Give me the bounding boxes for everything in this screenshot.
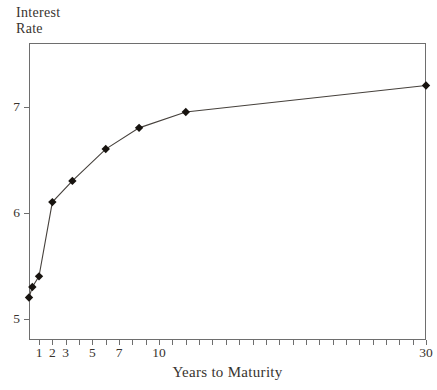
y-tick-label: 5 [13,311,20,326]
data-point-marker [182,108,190,116]
data-point-marker [422,81,430,89]
y-tick-label: 6 [13,205,20,220]
line-chart: 123571030567 [0,0,437,390]
y-tick-label: 7 [13,99,20,114]
x-tick-label: 5 [89,345,96,360]
x-tick-label: 2 [49,345,56,360]
series-line [29,85,426,297]
yield-curve-figure: Interest Rate 123571030567 Years to Matu… [0,0,437,390]
x-tick-label: 30 [419,345,433,360]
x-tick-label: 10 [152,345,166,360]
x-axis-title: Years to Maturity [29,364,426,381]
plot-frame [30,44,426,340]
x-tick-label: 3 [62,345,69,360]
x-tick-label: 1 [36,345,43,360]
x-tick-label: 7 [116,345,123,360]
data-point-marker [25,293,33,301]
data-point-marker [35,272,43,280]
data-point-marker [135,124,143,132]
